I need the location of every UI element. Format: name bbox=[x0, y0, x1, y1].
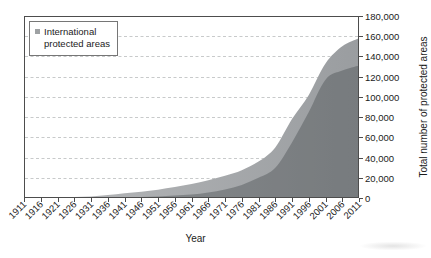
legend-label: International protected areas bbox=[44, 26, 114, 50]
y-tick-label: 20,000 bbox=[365, 173, 394, 184]
y-tick-label: 160,000 bbox=[365, 31, 399, 42]
y-tick-label: 0 bbox=[365, 193, 370, 204]
legend: International protected areas bbox=[29, 21, 118, 56]
y-tick-label: 80,000 bbox=[365, 112, 394, 123]
y-axis-title: Total number of protected areas bbox=[418, 36, 429, 177]
x-tick-label: 2011 bbox=[341, 199, 363, 221]
y-tick-label: 40,000 bbox=[365, 153, 394, 164]
y-tick-label: 100,000 bbox=[365, 92, 399, 103]
y-tick-label: 180,000 bbox=[365, 11, 399, 22]
legend-swatch-international bbox=[35, 29, 40, 34]
y-tick-label: 140,000 bbox=[365, 51, 399, 62]
y-tick-label: 60,000 bbox=[365, 132, 394, 143]
x-axis: 1911191619211926193119361941194619511956… bbox=[6, 198, 363, 221]
y-axis: 020,00040,00060,00080,000100,000120,0001… bbox=[359, 11, 399, 204]
y-tick-label: 120,000 bbox=[365, 72, 399, 83]
protected-areas-figure: 1911191619211926193119361941194619511956… bbox=[0, 0, 431, 258]
x-axis-title: Year bbox=[4, 233, 387, 244]
